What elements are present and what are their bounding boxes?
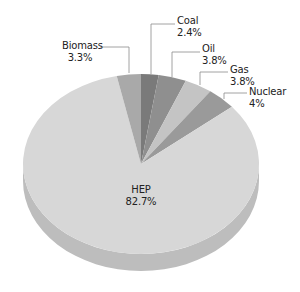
label-hep-value: 82.7% (116, 196, 166, 208)
label-biomass: Biomass 3.3% (62, 40, 98, 64)
pie-chart (0, 0, 300, 292)
leader-coal (151, 24, 175, 74)
label-coal-name: Coal (177, 15, 202, 27)
label-nuclear-name: Nuclear (249, 86, 286, 98)
label-hep-name: HEP (116, 184, 166, 196)
leader-oil (172, 52, 200, 77)
leader-biomass (100, 47, 129, 73)
leader-gas (200, 72, 228, 85)
label-oil: Oil 3.8% (202, 43, 227, 67)
label-gas: Gas 3.8% (230, 64, 255, 88)
label-biomass-name: Biomass (62, 40, 98, 52)
label-gas-name: Gas (230, 64, 255, 76)
pie-slices (23, 74, 259, 254)
label-coal: Coal 2.4% (177, 15, 202, 39)
label-nuclear: Nuclear 4% (249, 86, 286, 110)
label-oil-name: Oil (202, 43, 227, 55)
label-biomass-value: 3.3% (62, 52, 98, 64)
label-oil-value: 3.8% (202, 55, 227, 67)
label-coal-value: 2.4% (177, 27, 202, 39)
leader-nuclear (224, 93, 247, 99)
label-hep: HEP 82.7% (116, 184, 166, 208)
label-nuclear-value: 4% (249, 98, 286, 110)
